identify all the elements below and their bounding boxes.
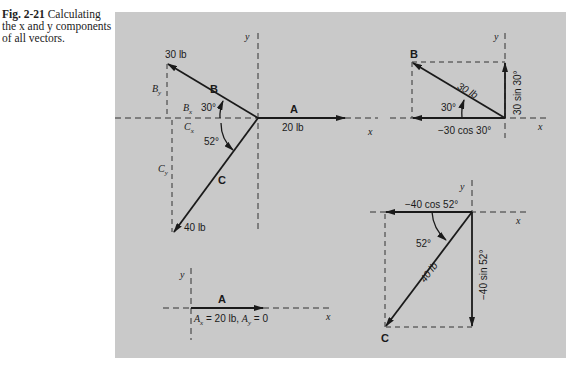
c-x-component-label: −40 cos 52° xyxy=(405,199,458,210)
b-label: B xyxy=(410,48,418,60)
b-magnitude: 30 lb xyxy=(456,80,481,101)
vector-c-label: C xyxy=(218,174,226,186)
a-component-diagram: y x A Ax = 20 lb, Ay = 0 xyxy=(163,268,333,340)
c-component-diagram: y x −40 cos 52° 52° 40 lb −40 sin 52° C xyxy=(370,180,526,344)
c-angle: 52° xyxy=(416,238,431,249)
b-angle: 30° xyxy=(441,102,456,113)
b-y-label: By xyxy=(152,83,162,97)
b-y-component-label: 30 sin 30° xyxy=(512,70,523,115)
a-components-equation: Ax = 20 lb, Ay = 0 xyxy=(193,313,268,327)
vector-a-magnitude: 20 lb xyxy=(282,122,304,133)
c-angle-arc xyxy=(432,212,446,240)
figure-label: Fig. 2-21 xyxy=(2,8,45,20)
a-label: A xyxy=(218,293,226,305)
angle-arc-52 xyxy=(221,123,233,150)
vector-b-label: B xyxy=(210,83,218,95)
c-magnitude: 40 lb xyxy=(418,260,440,284)
a-y-axis-label: y xyxy=(179,269,185,280)
vector-a-label: A xyxy=(290,103,298,115)
c-x-axis-label: x xyxy=(515,215,521,226)
c-y-component-label: −40 sin 52° xyxy=(478,250,489,300)
figure-panel: y x A 20 lb 30 lb B 30° By Bx 40 lb C 52… xyxy=(115,12,566,358)
b-x-component-label: −30 cos 30° xyxy=(438,125,491,136)
a-x-axis-label: x xyxy=(325,311,331,322)
x-axis-label: x xyxy=(367,126,373,137)
b-angle-arc xyxy=(462,100,464,118)
c-y-label: Cy xyxy=(158,163,169,177)
c-y-axis-label: y xyxy=(459,181,465,192)
c-x-label: Cx xyxy=(184,121,195,135)
angle-arc-30 xyxy=(220,101,223,118)
figure-caption: Fig. 2-21 Calculating the x and y compon… xyxy=(2,8,112,44)
vector-b-angle: 30° xyxy=(201,102,216,113)
vector-diagrams: y x A 20 lb 30 lb B 30° By Bx 40 lb C 52… xyxy=(115,12,566,358)
b-x-label: Bx xyxy=(183,102,193,116)
c-label: C xyxy=(381,332,389,344)
vector-c-magnitude: 40 lb xyxy=(184,222,206,233)
y-axis-label: y xyxy=(244,31,250,42)
vector-b-magnitude: 30 lb xyxy=(165,49,187,60)
b-component-diagram: y x B 30 lb 30° −30 cos 30° 30 sin 30° xyxy=(390,31,548,138)
b-y-axis-label: y xyxy=(493,31,499,42)
main-diagram: y x A 20 lb 30 lb B 30° By Bx 40 lb C 52… xyxy=(115,31,378,233)
b-x-axis-label: x xyxy=(537,121,543,132)
vector-c-angle: 52° xyxy=(204,136,219,147)
